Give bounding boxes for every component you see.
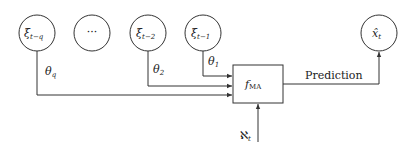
edge-theta-2: θ2 bbox=[148, 51, 232, 86]
svg-text:θq: θq bbox=[45, 65, 57, 79]
prediction-label: Prediction bbox=[305, 69, 363, 82]
edge-noise: ℵt bbox=[240, 104, 258, 143]
node-ellipsis: ··· bbox=[74, 15, 110, 51]
svg-text:ℵt: ℵt bbox=[240, 129, 251, 143]
node-x-hat-t: x̂t bbox=[361, 15, 397, 51]
function-box-fma: fMA bbox=[233, 65, 283, 103]
edge-prediction: Prediction bbox=[283, 52, 379, 84]
svg-text:θ2: θ2 bbox=[153, 63, 165, 77]
ma-diagram: ξt−q ··· ξt−2 ξt−1 x̂t fMA θq θ2 θ1 bbox=[0, 0, 413, 150]
svg-text:···: ··· bbox=[87, 26, 98, 39]
node-xi-t-minus-2: ξt−2 bbox=[130, 15, 166, 51]
node-xi-t-minus-q: ξt−q bbox=[19, 15, 55, 51]
edge-theta-1: θ1 bbox=[203, 51, 232, 76]
node-xi-t-minus-1: ξt−1 bbox=[185, 15, 221, 51]
svg-text:θ1: θ1 bbox=[208, 55, 219, 69]
